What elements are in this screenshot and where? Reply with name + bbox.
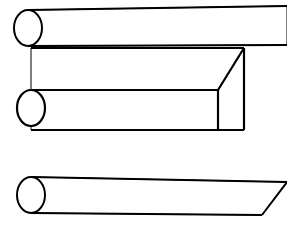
bottom-bar-end-cap-ellipse <box>17 177 45 213</box>
line-drawing-canvas <box>0 0 287 227</box>
top-bar-bottom-edge <box>28 45 287 46</box>
middle-bar-end-cap-ellipse <box>17 90 45 126</box>
shape-top-bar <box>14 6 287 46</box>
top-bar-body-face <box>28 6 287 46</box>
top-bar-end-cap-ellipse <box>14 10 42 46</box>
middle-bar-top-face <box>31 48 244 90</box>
figure-root: Black and white technical line drawing s… <box>0 0 287 227</box>
shape-middle-bar <box>17 48 244 130</box>
middle-bar-body-face <box>31 90 218 130</box>
bottom-bar-body-face <box>31 177 287 215</box>
shape-bottom-bar <box>17 177 287 215</box>
